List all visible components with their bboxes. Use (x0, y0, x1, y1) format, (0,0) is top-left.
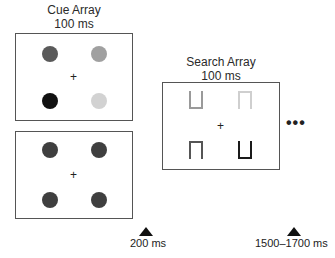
timeline-marker-label: 200 ms (130, 237, 166, 249)
cue-dot-bottom-right (91, 93, 107, 109)
search-shape-bottom-right (238, 141, 252, 159)
timeline-marker-label: 1500–1700 ms (255, 237, 328, 249)
placeholder-array-frame: + (15, 131, 133, 219)
cue-array-title-text: Cue Array (15, 3, 133, 17)
fixation-cross: + (217, 120, 224, 132)
cue-array-frame: + (15, 33, 133, 121)
search-array-title-text: Search Array (162, 55, 280, 69)
fixation-cross: + (70, 169, 77, 181)
search-shape-top-left (189, 91, 203, 109)
search-shape-top-right (238, 91, 252, 109)
timeline-marker-triangle (287, 227, 301, 236)
search-array-title: Search Array 100 ms (162, 55, 280, 83)
cue-dot-bottom-left (42, 93, 58, 109)
search-array-duration: 100 ms (162, 69, 280, 83)
placeholder-dot-bottom-left (42, 192, 58, 208)
cue-dot-top-right (91, 46, 107, 62)
timeline-marker-triangle (139, 227, 153, 236)
continuation-ellipsis: ••• (286, 114, 306, 132)
cue-dot-top-left (42, 46, 58, 62)
search-array-frame: + (162, 82, 280, 170)
fixation-cross: + (70, 71, 77, 83)
cue-array-title: Cue Array 100 ms (15, 3, 133, 31)
placeholder-dot-top-right (91, 142, 107, 158)
cue-array-duration: 100 ms (15, 17, 133, 31)
placeholder-dot-top-left (42, 142, 58, 158)
placeholder-dot-bottom-right (91, 192, 107, 208)
search-shape-bottom-left (189, 141, 203, 159)
